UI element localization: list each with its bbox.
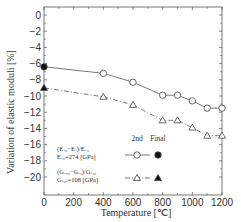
x-tick-label: 1000 xyxy=(181,197,204,208)
y-tick-label: −2 xyxy=(30,26,42,37)
open-circle-marker xyxy=(100,70,106,76)
open-circle-marker xyxy=(219,105,225,111)
legend-label-1: (Eₓ₀−Eₓ)/Eₓ₀ xyxy=(57,145,89,153)
open-circle-marker xyxy=(130,79,136,85)
open-circle-marker xyxy=(204,105,210,111)
elastic-moduli-chart: 0−2−4−6−8−10−12−14−16−18−200200400600800… xyxy=(0,0,241,222)
legend-open-circle xyxy=(134,152,140,158)
open-triangle-marker xyxy=(174,117,181,123)
legend-sublabel-1: Eₓ₀=274 [GPa] xyxy=(57,153,96,161)
y-tick-label: −20 xyxy=(24,172,41,183)
legend: 2ndFinal(Eₓ₀−Eₓ)/Eₓ₀Eₓ₀=274 [GPa](Gₓᵧ₀−G… xyxy=(57,134,166,184)
open-circle-marker xyxy=(174,92,180,98)
legend-label-2: (Gₓᵧ₀−Gₓᵧ)/Gₓᵧ₀ xyxy=(57,168,96,176)
y-tick-label: −16 xyxy=(24,139,41,150)
y-tick-label: −10 xyxy=(24,91,41,102)
open-circle-marker xyxy=(159,92,165,98)
open-triangle-marker xyxy=(189,124,196,130)
y-axis-label: Variation of elastic moduli [%] xyxy=(5,50,16,174)
open-triangle-marker xyxy=(130,101,137,107)
legend-filled-triangle xyxy=(155,175,162,181)
filled-circle-marker xyxy=(41,64,47,70)
legend-sublabel-2: Gₓᵧ₀=108 [GPa] xyxy=(57,176,98,184)
y-tick-label: 0 xyxy=(35,10,41,21)
legend-open-triangle xyxy=(134,175,141,181)
open-circle-marker xyxy=(189,98,195,104)
open-triangle-marker xyxy=(219,132,226,138)
x-axis-label: Temperature [℃] xyxy=(101,207,172,218)
plot-series xyxy=(41,64,226,139)
y-tick-label: −8 xyxy=(30,74,42,85)
x-tick-label: 200 xyxy=(65,197,82,208)
y-tick-label: −4 xyxy=(30,42,42,53)
y-tick-label: −18 xyxy=(24,155,41,166)
legend-header-final: Final xyxy=(150,134,165,143)
open-triangle-marker xyxy=(159,117,166,123)
y-tick-label: −12 xyxy=(24,107,41,118)
legend-filled-circle xyxy=(155,152,161,158)
filled-triangle-marker xyxy=(41,84,48,90)
y-tick-label: −6 xyxy=(30,58,42,69)
y-tick-label: −14 xyxy=(24,123,41,134)
legend-header-2nd: 2nd xyxy=(131,134,143,143)
x-tick-label: 1200 xyxy=(211,197,234,208)
x-tick-label: 0 xyxy=(41,197,47,208)
open-triangle-marker xyxy=(204,132,211,138)
